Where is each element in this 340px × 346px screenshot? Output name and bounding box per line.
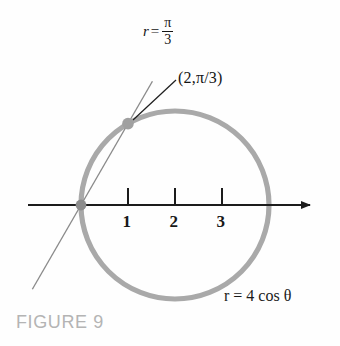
theta-ray-line: [32, 81, 152, 289]
fraction-denominator: 3: [162, 32, 173, 47]
pi-over-three-fraction: π 3: [162, 16, 173, 47]
theta-ray-label: r = π 3: [143, 16, 173, 47]
theta-ray-label-equals: =: [151, 24, 159, 39]
axis-tick-label-2: 2: [170, 213, 179, 230]
figure-container: 1 2 3 r = π 3 (2,π/3) r = 4 cos θ FIGURE…: [0, 0, 340, 346]
theta-ray-label-variable: r: [143, 24, 149, 39]
point-coordinate-label: (2,π/3): [178, 70, 223, 86]
axis-tick-label-3: 3: [217, 213, 226, 230]
origin-pole-marker: [76, 200, 87, 211]
curve-equation-label: r = 4 cos θ: [224, 288, 291, 304]
figure-caption: FIGURE 9: [16, 312, 104, 333]
intersection-point-marker: [122, 118, 134, 130]
axis-tick-label-1: 1: [123, 213, 132, 230]
fraction-numerator: π: [162, 16, 173, 31]
